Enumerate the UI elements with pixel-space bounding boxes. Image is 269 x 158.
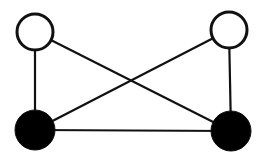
graph-edges (35, 30, 231, 131)
edge-bottom-left-bottom-right (35, 130, 231, 131)
node-top-left (17, 14, 53, 50)
graph-diagram (0, 0, 269, 158)
node-bottom-left (15, 110, 55, 150)
node-bottom-right (211, 111, 251, 151)
edge-top-left-bottom-right (35, 32, 231, 131)
node-top-right (211, 12, 247, 48)
